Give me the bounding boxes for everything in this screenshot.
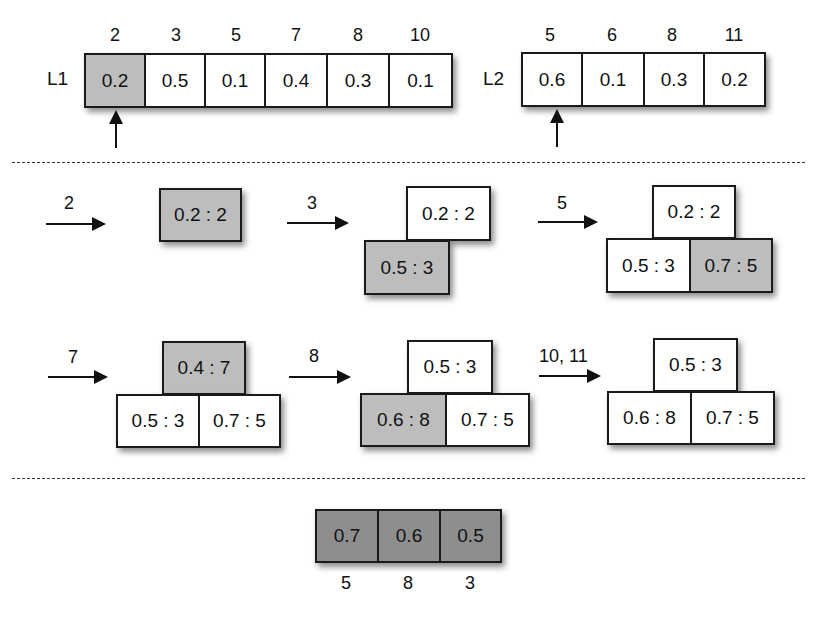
result-index: 8 <box>378 573 438 594</box>
right-arrow-icon <box>538 221 596 223</box>
divider-bottom <box>12 478 805 479</box>
heap-node: 0.5 : 3 <box>116 394 200 448</box>
l2-index: 6 <box>582 25 642 46</box>
result-index: 5 <box>316 573 376 594</box>
l2-cell: 0.1 <box>581 52 645 107</box>
divider-top <box>12 162 805 163</box>
heap-node: 0.7 : 5 <box>690 391 775 445</box>
right-arrow-icon <box>46 223 104 225</box>
heap-node: 0.2 : 2 <box>652 185 736 239</box>
result-cell: 0.5 <box>439 509 502 563</box>
l1-cell: 0.3 <box>326 53 390 108</box>
l1-index: 8 <box>328 25 388 46</box>
l2-cell: 0.2 <box>703 52 766 107</box>
l1-index: 10 <box>390 25 450 46</box>
l1-cell: 0.4 <box>264 53 328 108</box>
heap-bottom-row: 0.5 : 3 0.7 : 5 <box>116 394 281 448</box>
right-arrow-icon <box>539 375 599 377</box>
heap-node: 0.5 : 3 <box>364 240 450 295</box>
right-arrow-icon <box>287 222 347 224</box>
l1-cell: 0.1 <box>388 53 453 108</box>
heap-node: 0.7 : 5 <box>198 394 281 448</box>
l1-cell: 0.1 <box>204 53 266 108</box>
step-arrow-label: 7 <box>68 347 78 368</box>
l2-pointer-arrow-icon <box>556 113 558 147</box>
l2-index: 11 <box>704 25 764 46</box>
l1-cell: 0.5 <box>144 53 206 108</box>
step-arrow-label: 10, 11 <box>539 346 588 367</box>
heap-bottom-row: 0.6 : 8 0.7 : 5 <box>360 393 530 447</box>
heap-bottom-row: 0.6 : 8 0.7 : 5 <box>607 391 775 445</box>
heap-node: 0.6 : 8 <box>360 393 447 447</box>
l2-index: 5 <box>520 25 580 46</box>
right-arrow-icon <box>289 376 349 378</box>
step-arrow-label: 3 <box>307 193 317 214</box>
l1-index: 5 <box>206 25 266 46</box>
list-l2-label: L2 <box>483 68 504 90</box>
result-cell: 0.6 <box>377 509 441 563</box>
l1-cell: 0.2 <box>84 53 146 108</box>
result-index: 3 <box>440 573 500 594</box>
l2-cell: 0.6 <box>521 52 583 107</box>
l2-index: 8 <box>642 25 702 46</box>
heap-node: 0.7 : 5 <box>689 238 773 293</box>
heap-node: 0.5 : 3 <box>407 340 493 394</box>
heap-node: 0.6 : 8 <box>607 391 692 445</box>
l1-index: 7 <box>266 25 326 46</box>
l2-cell: 0.3 <box>643 52 705 107</box>
heap-bottom-row: 0.5 : 3 0.7 : 5 <box>606 238 773 293</box>
heap-node: 0.7 : 5 <box>445 393 530 447</box>
heap-node: 0.4 : 7 <box>162 341 246 395</box>
step-arrow-label: 8 <box>309 346 319 367</box>
heap-node: 0.2 : 2 <box>159 188 242 242</box>
l1-pointer-arrow-icon <box>115 114 117 148</box>
result-cell: 0.7 <box>315 509 379 563</box>
l1-index: 3 <box>146 25 206 46</box>
right-arrow-icon <box>48 376 106 378</box>
heap-node: 0.5 : 3 <box>653 338 738 392</box>
l1-array: 0.2 0.5 0.1 0.4 0.3 0.1 <box>84 53 453 108</box>
l2-array: 0.6 0.1 0.3 0.2 <box>521 52 766 107</box>
l1-index: 2 <box>85 25 145 46</box>
step-arrow-label: 2 <box>64 193 74 214</box>
step-arrow-label: 5 <box>557 193 567 214</box>
result-array: 0.7 0.6 0.5 <box>315 509 502 563</box>
heap-node: 0.2 : 2 <box>406 186 491 241</box>
list-l1-label: L1 <box>47 68 68 90</box>
heap-node: 0.5 : 3 <box>606 238 691 293</box>
